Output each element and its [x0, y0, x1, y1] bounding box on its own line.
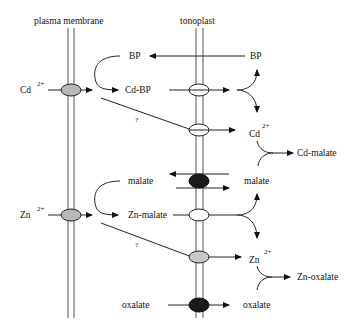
cd-complexation-curve-top	[257, 141, 273, 153]
unknown-cd-pathway-line	[101, 98, 192, 130]
malate-left-label: malate	[128, 176, 153, 186]
cd-ion-right-charge: 2+	[262, 122, 270, 130]
zn-malate-label: Zn-malate	[128, 210, 167, 220]
malate-right-label: malate	[244, 176, 269, 186]
tonoplast-malate-antiporter	[189, 174, 209, 188]
zn-complexation-curve-top	[257, 266, 272, 277]
zn-oxalate-label: Zn-oxalate	[297, 272, 338, 282]
cd-zn-transport-diagram: plasma membrane tonoplast Cd 2+ BP BP Cd…	[0, 0, 361, 333]
cd-complexation-curve-bottom	[258, 153, 273, 166]
cd-malate-label: Cd-malate	[297, 148, 337, 158]
dissociation-cd-arrow	[237, 90, 257, 112]
bp-left-label: BP	[129, 51, 141, 61]
zn-ion-right-label: Zn	[249, 255, 260, 265]
malate-binding-arrow	[95, 181, 120, 215]
zn-ion-left-charge: 2+	[37, 205, 45, 213]
zn-complexation-curve-bottom	[257, 277, 272, 290]
tonoplast-label: tonoplast	[180, 16, 215, 26]
unknown-zn-pathway-line	[101, 223, 192, 257]
dissociation-zn-arrow	[237, 215, 257, 238]
bp-binding-arrow	[95, 56, 120, 90]
tonoplast-oxalate-transporter	[189, 298, 209, 312]
zn-ion-right-charge: 2+	[264, 248, 272, 256]
plasma-membrane-zn-transporter	[61, 209, 81, 221]
bp-right-label: BP	[250, 51, 262, 61]
plasma-membrane	[68, 28, 74, 318]
unknown-cd-pathway-label: ?	[135, 116, 138, 124]
tonoplast-zn-malate-transporter	[189, 209, 209, 221]
zn-ion-left-label: Zn	[20, 210, 31, 220]
cd-bp-label: Cd-BP	[125, 85, 151, 95]
tonoplast-zn-transporter	[189, 251, 209, 263]
cd-ion-left-charge: 2+	[37, 80, 45, 88]
plasma-membrane-label: plasma membrane	[34, 16, 103, 26]
dissociation-malate-arrow	[237, 194, 257, 215]
oxalate-left-label: oxalate	[122, 300, 149, 310]
cd-ion-right-label: Cd	[249, 129, 260, 139]
dissociation-bp-arrow	[237, 70, 257, 90]
plasma-membrane-cd-transporter	[61, 84, 81, 96]
tonoplast-membrane	[196, 28, 203, 318]
unknown-zn-pathway-label: ?	[135, 241, 138, 249]
oxalate-right-label: oxalate	[243, 300, 270, 310]
cd-ion-left-label: Cd	[20, 85, 31, 95]
